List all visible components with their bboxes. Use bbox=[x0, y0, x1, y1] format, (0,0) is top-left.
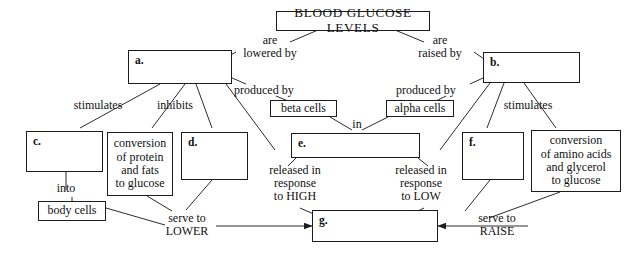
box-b[interactable]: b. bbox=[483, 52, 580, 83]
box-beta-cells[interactable]: beta cells bbox=[270, 100, 337, 117]
box-d[interactable]: d. bbox=[181, 132, 248, 180]
edge-label-in: in bbox=[348, 118, 366, 131]
box-alpha-cells[interactable]: alpha cells bbox=[386, 100, 454, 117]
edge-label-are-raised-by: are raised by bbox=[405, 34, 475, 60]
box-label: BLOOD GLUCOSE LEVELS bbox=[277, 6, 429, 36]
edge-label-produced-by-left: produced by bbox=[234, 84, 308, 97]
box-label: d. bbox=[188, 136, 197, 149]
box-label: f. bbox=[469, 136, 476, 149]
box-conversion-amino-glycerol[interactable]: conversion of amino acids and glycerol t… bbox=[531, 130, 621, 192]
edge-label-stimulates-right: stimulates bbox=[492, 99, 564, 112]
box-e[interactable]: e. bbox=[291, 133, 420, 158]
box-label: alpha cells bbox=[395, 102, 446, 115]
box-label: conversion of protein and fats to glucos… bbox=[114, 137, 167, 191]
edge-label-released-response-low: released in response to LOW bbox=[382, 164, 460, 204]
box-label: c. bbox=[33, 135, 41, 148]
edge-label-into: into bbox=[48, 182, 84, 195]
box-c[interactable]: c. bbox=[26, 131, 103, 172]
box-conversion-protein-fats[interactable]: conversion of protein and fats to glucos… bbox=[107, 132, 173, 196]
edge-label-inhibits: inhibits bbox=[146, 99, 204, 112]
edge-label-serve-to-lower: serve to LOWER bbox=[156, 212, 218, 238]
box-f[interactable]: f. bbox=[462, 132, 524, 180]
box-g[interactable]: g. bbox=[312, 210, 438, 242]
box-label: g. bbox=[319, 214, 328, 227]
edge-label-produced-by-right: produced by bbox=[396, 84, 474, 97]
box-label: body cells bbox=[48, 204, 97, 217]
box-label: e. bbox=[298, 137, 306, 150]
box-body-cells[interactable]: body cells bbox=[38, 201, 106, 221]
box-a[interactable]: a. bbox=[128, 50, 232, 84]
edge-label-released-response-high: released in response to HIGH bbox=[256, 164, 334, 204]
edge-label-serve-to-raise: serve to RAISE bbox=[466, 212, 528, 238]
box-label: conversion of amino acids and glycerol t… bbox=[541, 134, 612, 188]
box-blood-glucose-levels[interactable]: BLOOD GLUCOSE LEVELS bbox=[276, 11, 430, 31]
box-label: beta cells bbox=[281, 102, 326, 115]
box-label: a. bbox=[135, 54, 144, 67]
edge-label-stimulates-left: stimulates bbox=[62, 99, 134, 112]
edge-label-are-lowered-by: are lowered by bbox=[234, 34, 306, 60]
concept-map-canvas: BLOOD GLUCOSE LEVELS a. b. c. d. e. f. g… bbox=[0, 0, 632, 258]
box-label: b. bbox=[490, 56, 499, 69]
